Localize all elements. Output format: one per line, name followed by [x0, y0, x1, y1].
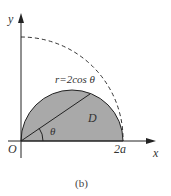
curve-label: r=2cos θ: [55, 74, 95, 85]
region-d: [21, 90, 123, 141]
origin-label: O: [8, 143, 17, 155]
region-label: D: [88, 112, 97, 124]
y-axis-arrow: [18, 13, 24, 23]
x-axis-label: x: [153, 147, 158, 159]
polar-region-diagram: [0, 0, 171, 196]
figure-caption: (b): [75, 178, 88, 189]
angle-label: θ: [50, 126, 55, 137]
x-tick-2a: 2a: [114, 143, 126, 155]
y-axis-label: y: [8, 13, 13, 25]
x-axis-arrow: [146, 138, 156, 144]
